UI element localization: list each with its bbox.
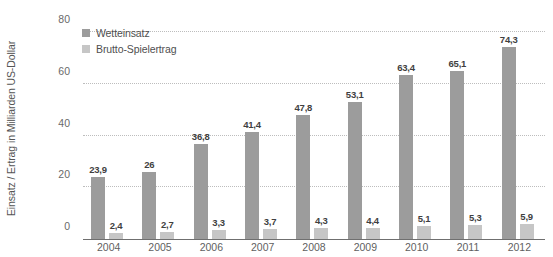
bar[interactable]: 65,1 <box>450 71 464 239</box>
bar-value-label: 23,9 <box>89 164 107 175</box>
bar-group: 41,43,7 <box>237 10 288 239</box>
bar[interactable]: 26 <box>142 172 156 239</box>
bar-value-label: 2,7 <box>161 219 174 230</box>
bar-value-label: 5,3 <box>469 212 482 223</box>
bar[interactable]: 63,4 <box>399 75 413 239</box>
bar[interactable]: 5,3 <box>468 225 482 239</box>
bar-group: 74,35,9 <box>494 10 545 239</box>
bar[interactable]: 41,4 <box>245 132 259 239</box>
bar-value-label: 63,4 <box>397 62 415 73</box>
bar-group: 65,15,3 <box>442 10 493 239</box>
bar-group: 53,14,4 <box>340 10 391 239</box>
legend-swatch-icon <box>82 45 90 53</box>
y-axis-tick-label: 0 <box>64 220 70 232</box>
bar-value-label: 3,7 <box>264 216 277 227</box>
x-axis-line <box>83 239 545 240</box>
legend-item[interactable]: Wetteinsatz <box>82 26 177 39</box>
bar-value-label: 2,4 <box>110 220 123 231</box>
bar[interactable]: 5,1 <box>417 226 431 239</box>
bar-chart: Einsatz / Ertrag in Milliarden US-Dollar… <box>0 0 553 257</box>
bar[interactable]: 4,3 <box>314 228 328 239</box>
x-axis-tick-label: 2011 <box>442 241 493 253</box>
x-axis-tick-label: 2004 <box>83 241 134 253</box>
bar-value-label: 5,9 <box>520 211 533 222</box>
y-axis-tick-label: 60 <box>58 64 70 76</box>
bar-group: 47,84,3 <box>288 10 339 239</box>
bar-value-label: 65,1 <box>448 58 466 69</box>
bar[interactable]: 53,1 <box>348 102 362 239</box>
x-axis-tick-labels: 200420052006200720082009201020112012 <box>83 241 545 257</box>
bar-value-label: 4,4 <box>366 215 379 226</box>
bar[interactable]: 5,9 <box>520 224 534 239</box>
bar[interactable]: 74,3 <box>502 47 516 239</box>
legend-swatch-icon <box>82 29 90 37</box>
chart-legend: WetteinsatzBrutto-Spielertrag <box>82 26 177 55</box>
bar-value-label: 26 <box>144 159 154 170</box>
x-axis-tick-label: 2006 <box>186 241 237 253</box>
bar[interactable]: 3,3 <box>212 230 226 239</box>
x-axis-tick-label: 2012 <box>494 241 545 253</box>
bar-value-label: 47,8 <box>294 102 312 113</box>
bar[interactable]: 36,8 <box>194 144 208 239</box>
bar[interactable]: 3,7 <box>263 229 277 239</box>
bar-group: 36,83,3 <box>186 10 237 239</box>
y-axis-tick-label: 20 <box>58 168 70 180</box>
bar-value-label: 41,4 <box>243 119 261 130</box>
legend-item[interactable]: Brutto-Spielertrag <box>82 42 177 55</box>
bar-value-label: 5,1 <box>418 213 431 224</box>
x-axis-tick-label: 2008 <box>288 241 339 253</box>
x-axis-tick-label: 2007 <box>237 241 288 253</box>
bar[interactable]: 23,9 <box>91 177 105 239</box>
bar[interactable]: 4,4 <box>366 228 380 239</box>
bar-value-label: 3,3 <box>212 217 225 228</box>
bar[interactable]: 47,8 <box>296 115 310 239</box>
bar-value-label: 4,3 <box>315 215 328 226</box>
y-axis-tick-label: 40 <box>58 116 70 128</box>
x-axis-tick-label: 2010 <box>391 241 442 253</box>
bar-value-label: 53,1 <box>346 89 364 100</box>
legend-label: Brutto-Spielertrag <box>96 43 177 55</box>
bar-value-label: 74,3 <box>500 34 518 45</box>
y-axis-tick-labels: 020406080 <box>0 10 76 239</box>
x-axis-tick-label: 2009 <box>340 241 391 253</box>
bar[interactable]: 2,7 <box>160 232 174 239</box>
bar-group: 63,45,1 <box>391 10 442 239</box>
x-axis-tick-label: 2005 <box>134 241 185 253</box>
y-axis-tick-label: 80 <box>58 13 70 25</box>
legend-label: Wetteinsatz <box>96 27 150 39</box>
bar-value-label: 36,8 <box>192 131 210 142</box>
